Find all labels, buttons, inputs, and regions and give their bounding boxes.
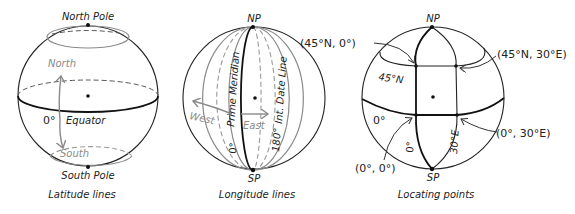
equator-line [18,96,158,112]
latitude-globe: North Pole North 0° Equator South South … [18,11,158,200]
east-label: East [243,120,266,131]
equator-line [362,98,504,115]
equator-back [18,80,158,96]
north-arrow-icon [59,76,61,120]
south-pole-label: South Pole [61,170,114,181]
prime-meridian-line [415,27,432,169]
center-dot [86,94,90,98]
north-pole-dot [251,25,255,29]
center-dot [253,96,257,100]
point-45n-0-dot [414,64,418,68]
north-pole-label: NP [247,13,261,24]
south-label: South [60,148,89,159]
date-line-label: Int. Date Line [273,56,289,124]
point-0-0-label: (0°, 0°) [355,162,396,175]
south-pole-dot [86,165,90,169]
zero-lat-label: 0° [373,114,386,127]
latitude-caption: Latitude lines [48,189,116,200]
point-45n-0-label: (45°N, 0°) [300,37,356,50]
north-pole-dot [430,25,434,29]
north-pole-dot [86,23,90,27]
leader-0-30e-icon [461,119,497,132]
center-dot [431,95,435,99]
south-pole-label: SP [248,173,261,184]
prime-meridian-line [241,27,253,170]
west-label: West [189,110,217,126]
locating-points-globe: NP SP (45°N, 0°) (45°N, 30°E) 45°N 0° 0°… [300,13,567,200]
parallel-45n [380,48,485,66]
one-eighty-degree-label: 180° [270,127,283,152]
point-0-30e-dot [455,113,459,117]
point-45n-30e-dot [454,64,458,68]
south-pole-dot [251,168,255,172]
north-parallel [47,26,129,48]
zero-lon-label: 0° [404,141,416,153]
prime-meridian-label: Prime Meridian [225,51,241,127]
point-0-0-dot [414,113,418,117]
north-label: North [48,58,76,69]
longitude-caption: Longitude lines [219,189,295,200]
globe-diagrams: North Pole North 0° Equator South South … [0,0,575,214]
north-pole-label: North Pole [62,11,114,22]
south-pole-dot [430,167,434,171]
north-pole-label: NP [426,13,440,24]
lat-45n-label: 45°N [378,71,405,85]
equator-label: Equator [66,115,106,126]
zero-degree-label: 0° [43,114,56,127]
south-pole-label: SP [427,172,440,183]
point-0-30e-label: (0°, 30°E) [496,127,551,140]
lon-30e-label: 30°E [448,129,461,154]
locating-points-caption: Locating points [398,189,475,200]
south-arrow-icon [60,120,63,148]
zero-degree-label: 0° [227,142,239,154]
point-45n-30e-label: (45°N, 30°E) [497,48,567,61]
